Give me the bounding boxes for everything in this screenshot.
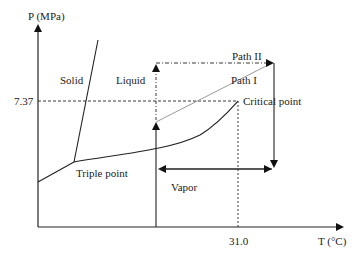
triple-point-label: Triple point [76, 167, 128, 179]
region-vapor-label: Vapor [171, 181, 198, 193]
y-tick-label: 7.37 [14, 95, 34, 107]
region-liquid-label: Liquid [116, 74, 146, 86]
phase-diagram: P (MPa) T (°C) 7.37 31.0 Solid Liquid Va… [0, 0, 360, 259]
x-tick-label: 31.0 [229, 235, 249, 247]
path-1-line [156, 63, 272, 122]
x-axis-label: T (°C) [318, 235, 347, 248]
path-1-label: Path I [231, 74, 257, 86]
critical-point-label: Critical point [243, 95, 301, 107]
sublimation-curve [38, 162, 74, 182]
y-axis-label: P (MPa) [28, 10, 65, 23]
region-solid-label: Solid [60, 74, 84, 86]
path-2-label: Path II [232, 50, 262, 62]
